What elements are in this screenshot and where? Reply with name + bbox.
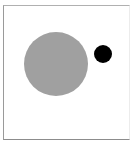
small-black-circle bbox=[94, 45, 112, 63]
large-gray-circle bbox=[24, 32, 88, 96]
